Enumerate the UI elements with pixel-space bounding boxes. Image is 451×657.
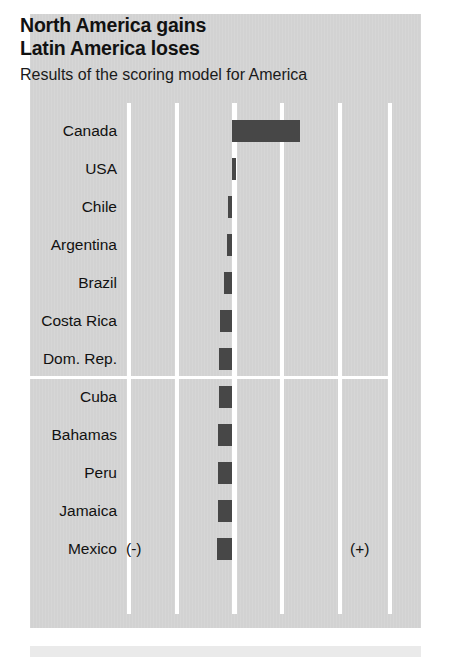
chart-row: Argentina <box>0 226 391 264</box>
chart-row: Bahamas <box>0 416 391 454</box>
chart-title-line-2: Latin America loses <box>20 37 380 60</box>
category-label: Brazil <box>0 264 117 302</box>
bar-chile <box>228 196 232 218</box>
chart-row: Mexico(-)(+) <box>0 530 391 568</box>
bar-jamaica <box>218 500 232 522</box>
negative-sign-marker: (-) <box>126 530 142 568</box>
bar-argentina <box>227 234 232 256</box>
bar-mexico <box>217 538 232 560</box>
footer-band <box>30 646 421 657</box>
bar-cuba <box>219 386 232 408</box>
bar-bahamas <box>218 424 232 446</box>
category-label: Chile <box>0 188 117 226</box>
category-label: Jamaica <box>0 492 117 530</box>
bar-dom-rep <box>219 348 232 370</box>
category-label: Mexico <box>0 530 117 568</box>
category-label: Argentina <box>0 226 117 264</box>
category-label: USA <box>0 150 117 188</box>
category-label: Bahamas <box>0 416 117 454</box>
category-label: Canada <box>0 112 117 150</box>
chart-row: Jamaica <box>0 492 391 530</box>
chart-row: Canada <box>0 112 391 150</box>
chart-row: Brazil <box>0 264 391 302</box>
category-label: Dom. Rep. <box>0 340 117 378</box>
positive-sign-marker: (+) <box>350 530 369 568</box>
chart-row: Dom. Rep. <box>0 340 391 378</box>
bar-peru <box>218 462 232 484</box>
category-label: Cuba <box>0 378 117 416</box>
chart-row: USA <box>0 150 391 188</box>
chart-row: Chile <box>0 188 391 226</box>
chart-title-line-1: North America gains <box>20 14 380 37</box>
chart-figure: North America gains Latin America loses … <box>0 0 451 657</box>
category-label: Costa Rica <box>0 302 117 340</box>
bar-brazil <box>224 272 232 294</box>
bar-usa <box>232 158 236 180</box>
chart-row: Cuba <box>0 378 391 416</box>
chart-row: Peru <box>0 454 391 492</box>
category-label: Peru <box>0 454 117 492</box>
plot-area: CanadaUSAChileArgentinaBrazilCosta RicaD… <box>0 103 391 614</box>
chart-header: North America gains Latin America loses … <box>20 14 380 84</box>
chart-subtitle: Results of the scoring model for America <box>20 65 380 84</box>
bar-costa-rica <box>220 310 232 332</box>
bar-canada <box>232 120 300 142</box>
chart-row: Costa Rica <box>0 302 391 340</box>
